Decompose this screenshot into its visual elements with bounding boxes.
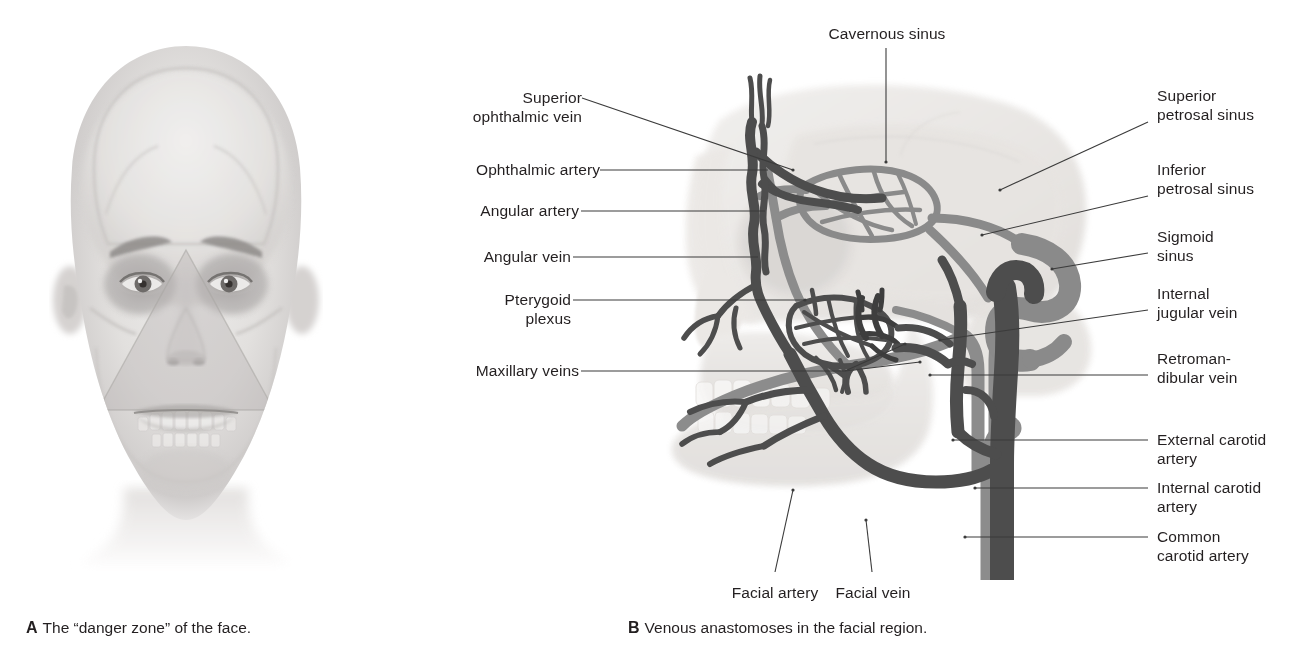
maxillary-vein-vessel-2 [898, 328, 950, 344]
label-external-carotid-artery: External carotid artery [1157, 430, 1290, 468]
label-cavernous-sinus: Cavernous sinus [790, 24, 984, 43]
frontal-vein-branch [768, 80, 770, 126]
label-pterygoid-plexus: Pterygoid plexus [324, 290, 571, 328]
label-superior-petrosal-sinus: Superior petrosal sinus [1157, 86, 1287, 124]
figure-root: Cavernous sinus Superior ophthalmic vein… [0, 0, 1290, 661]
supratrochlear-vein [750, 78, 752, 122]
caption-a-text: The “danger zone” of the face. [43, 619, 252, 636]
label-common-carotid-artery: Common carotid artery [1157, 527, 1290, 565]
label-angular-artery: Angular artery [324, 201, 579, 220]
angular-vein-tributary [762, 126, 766, 272]
skull-vessels-image [600, 60, 1120, 580]
retromandibular-anastomosis [948, 361, 972, 364]
internal-jugular-vein-vessel [1002, 288, 1007, 580]
retromandibular-vein-vessel [957, 306, 961, 432]
caption-b-letter: B [628, 619, 640, 636]
right-eye-highlight [224, 279, 228, 283]
label-maxillary-veins: Maxillary veins [324, 361, 579, 380]
caption-a-letter: A [26, 619, 38, 636]
caption-panel-a: AThe “danger zone” of the face. [26, 618, 251, 637]
label-facial-vein: Facial vein [810, 583, 936, 602]
label-internal-jugular-vein: Internal jugular vein [1157, 284, 1287, 322]
label-ophthalmic-artery: Ophthalmic artery [324, 160, 600, 179]
label-internal-carotid-artery: Internal carotid artery [1157, 478, 1290, 516]
left-eye-highlight [138, 279, 142, 283]
caption-panel-b: BVenous anastomoses in the facial region… [628, 618, 927, 637]
label-superior-ophthalmic-vein: Superior ophthalmic vein [304, 88, 582, 126]
caption-b-text: Venous anastomoses in the facial region. [645, 619, 928, 636]
label-sigmoid-sinus: Sigmoid sinus [1157, 227, 1287, 265]
chin-shadow [142, 448, 230, 492]
panel-b-skull-illustration [600, 60, 1120, 580]
label-inferior-petrosal-sinus: Inferior petrosal sinus [1157, 160, 1287, 198]
label-angular-vein: Angular vein [324, 247, 571, 266]
supraorbital-vein [760, 76, 763, 124]
label-retromandibular-vein: Retroman- dibular vein [1157, 349, 1287, 387]
